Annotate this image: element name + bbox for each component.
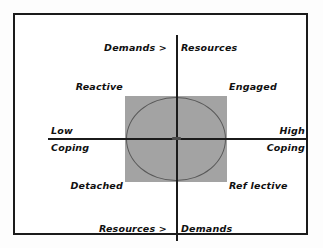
- quadrant-label-engaged: Engaged: [229, 81, 319, 92]
- horizontal-axis-right-top-label: High: [207, 125, 305, 136]
- vertical-axis-bottom-right-label: Demands: [181, 223, 232, 234]
- horizontal-axis-right-bottom-label: Coping: [207, 142, 305, 153]
- horizontal-axis-left-top-label: Low: [51, 125, 73, 136]
- vertical-axis-bottom-left-label: Resources >: [15, 223, 173, 234]
- quadrant-label-detached: Detached: [25, 180, 123, 191]
- quadrant-label-reflective: Ref lective: [229, 180, 321, 191]
- diagram-frame: Demands > Resources Resources > Demands …: [13, 13, 308, 235]
- vertical-axis-top-left-label: Demands >: [15, 42, 173, 53]
- vertical-axis-top-right-label: Resources: [181, 42, 237, 53]
- horizontal-axis-left-bottom-label: Coping: [51, 142, 89, 153]
- diagram-canvas: Demands > Resources Resources > Demands …: [0, 0, 323, 248]
- quadrant-label-reactive: Reactive: [25, 81, 123, 92]
- center-origin-mark: [172, 137, 181, 140]
